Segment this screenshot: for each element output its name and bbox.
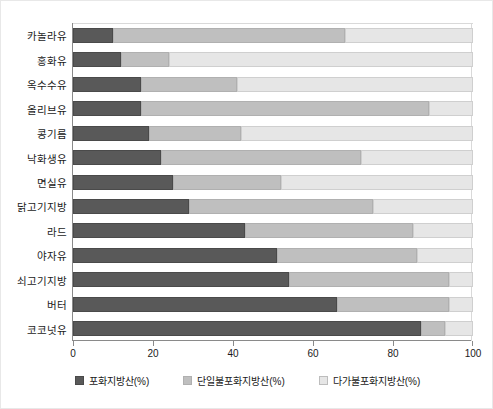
bar-segment	[121, 52, 169, 67]
bar-row: 콩기름	[73, 126, 473, 141]
bar-segment	[173, 175, 281, 190]
bar-segment	[73, 150, 161, 165]
category-label: 닭고기지방	[17, 199, 67, 214]
legend-label: 단일불포화지방산(%)	[197, 373, 285, 388]
x-tick-mark	[73, 341, 74, 346]
plot-frame-top	[73, 23, 473, 24]
category-label: 낙화생유	[27, 150, 67, 165]
x-tick-label: 100	[465, 348, 482, 359]
legend-label: 포화지방산(%)	[89, 373, 150, 388]
category-label: 쇠고기지방	[17, 272, 67, 287]
bar-segment	[73, 199, 189, 214]
bar-segment	[73, 28, 113, 43]
x-tick-label: 0	[70, 348, 76, 359]
bar-segment	[73, 223, 245, 238]
bar-segment	[277, 248, 417, 263]
category-label: 면실유	[37, 175, 67, 190]
bar-segment	[113, 28, 345, 43]
bar-segment	[73, 297, 337, 312]
bar-segment	[73, 101, 141, 116]
x-tick-mark	[233, 341, 234, 346]
legend-item[interactable]: 포화지방산(%)	[75, 373, 150, 388]
x-tick-mark	[393, 341, 394, 346]
bar-segment	[73, 77, 141, 92]
category-label: 버터	[47, 297, 67, 312]
category-label: 올리브유	[27, 101, 67, 116]
bar-segment	[421, 321, 445, 336]
bar-segment	[189, 199, 373, 214]
bar-segment	[449, 272, 473, 287]
bar-segment	[337, 297, 449, 312]
bar-segment	[149, 126, 241, 141]
bar-segment	[237, 77, 473, 92]
bar-segment	[169, 52, 473, 67]
bar-segment	[345, 28, 473, 43]
legend-swatch-polyunsaturated	[319, 376, 328, 385]
bar-row: 쇠고기지방	[73, 272, 473, 287]
legend-label: 다가불포화지방산(%)	[333, 373, 421, 388]
bar-row: 올리브유	[73, 101, 473, 116]
bar-row: 라드	[73, 223, 473, 238]
bar-row: 닭고기지방	[73, 199, 473, 214]
bar-row: 옥수수유	[73, 77, 473, 92]
bar-row: 면실유	[73, 175, 473, 190]
bar-segment	[73, 272, 289, 287]
bar-segment	[361, 150, 473, 165]
bar-segment	[141, 77, 237, 92]
bar-segment	[417, 248, 473, 263]
category-label: 라드	[47, 223, 67, 238]
legend-swatch-saturated	[75, 376, 84, 385]
bar-segment	[373, 199, 473, 214]
category-label: 코코넛유	[27, 321, 67, 336]
plot-area: 카놀라유홍화유옥수수유올리브유콩기름낙화생유면실유닭고기지방라드야자유쇠고기지방…	[72, 23, 472, 341]
bar-row: 낙화생유	[73, 150, 473, 165]
legend-item[interactable]: 단일불포화지방산(%)	[183, 373, 285, 388]
bar-segment	[449, 297, 473, 312]
x-tick-label: 40	[227, 348, 238, 359]
bar-row: 코코넛유	[73, 321, 473, 336]
bar-row: 카놀라유	[73, 28, 473, 43]
bar-segment	[161, 150, 361, 165]
bar-segment	[73, 321, 421, 336]
chart-legend: 포화지방산(%)단일불포화지방산(%)다가불포화지방산(%)	[1, 373, 493, 388]
bar-row: 버터	[73, 297, 473, 312]
bar-segment	[245, 223, 413, 238]
bar-segment	[429, 101, 473, 116]
bar-segment	[73, 248, 277, 263]
category-label: 야자유	[37, 248, 67, 263]
bar-segment	[73, 126, 149, 141]
bar-segment	[73, 175, 173, 190]
bar-segment	[141, 101, 429, 116]
bar-row: 야자유	[73, 248, 473, 263]
legend-swatch-monounsaturated	[183, 376, 192, 385]
x-tick-mark	[313, 341, 314, 346]
chart-page: 카놀라유홍화유옥수수유올리브유콩기름낙화생유면실유닭고기지방라드야자유쇠고기지방…	[0, 0, 493, 409]
x-tick-mark	[472, 341, 473, 346]
x-tick-label: 60	[307, 348, 318, 359]
bar-segment	[73, 52, 121, 67]
category-label: 옥수수유	[27, 77, 67, 92]
category-label: 카놀라유	[27, 28, 67, 43]
legend-item[interactable]: 다가불포화지방산(%)	[319, 373, 421, 388]
x-tick-label: 80	[387, 348, 398, 359]
bar-segment	[281, 175, 473, 190]
bar-segment	[289, 272, 449, 287]
bar-segment	[413, 223, 473, 238]
x-tick-mark	[153, 341, 154, 346]
bar-segment	[241, 126, 473, 141]
x-tick-label: 20	[147, 348, 158, 359]
category-label: 홍화유	[37, 52, 67, 67]
category-label: 콩기름	[37, 126, 67, 141]
bar-segment	[445, 321, 473, 336]
bar-row: 홍화유	[73, 52, 473, 67]
